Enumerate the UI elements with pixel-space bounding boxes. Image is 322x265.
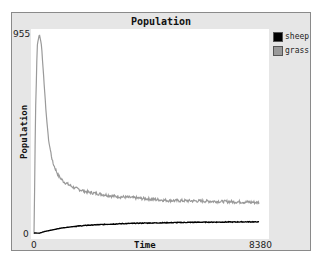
legend-swatch-grass [273,46,283,56]
x-axis-label: Time [134,240,156,250]
plot-area [31,29,269,239]
series-line-sheep [34,222,259,234]
y-tick-max: 955 [13,29,30,39]
line-chart [31,29,269,239]
x-tick-max: 8380 [249,240,272,250]
legend: sheep grass [273,30,309,58]
y-axis-label: Population [19,105,29,159]
legend-label-grass: grass [285,46,309,55]
chart-title: Population [12,16,310,27]
legend-item-grass: grass [273,44,309,57]
legend-item-sheep: sheep [273,30,309,43]
legend-label-sheep: sheep [285,32,309,41]
series-line-grass [34,35,259,234]
legend-swatch-sheep [273,32,283,42]
y-tick-min: 0 [23,229,29,239]
x-tick-min: 0 [31,240,37,250]
plot-frame: Population 955 0 Population 0 8380 Time … [11,12,311,251]
